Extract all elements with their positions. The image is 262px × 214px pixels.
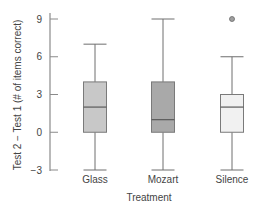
x-axis-labels: GlassMozartSilence — [82, 174, 249, 185]
boxes — [84, 17, 244, 171]
y-tick-label: 0 — [36, 127, 42, 138]
box-mozart — [152, 19, 175, 170]
y-tick-label: 6 — [36, 51, 42, 62]
y-axis-title: Test 2 − Test 1 (# of items correct) — [12, 20, 23, 171]
y-tick-label: −3 — [31, 165, 43, 176]
box-glass — [84, 44, 107, 170]
x-category-label: Silence — [216, 174, 249, 185]
y-axis: 9630−3 — [31, 13, 58, 176]
iqr-box — [152, 82, 175, 132]
outlier-point — [230, 17, 235, 22]
x-category-label: Glass — [82, 174, 108, 185]
box-plot-chart: 9630−3 GlassMozartSilence Treatment Test… — [0, 0, 262, 214]
y-tick-label: 3 — [36, 89, 42, 100]
iqr-box — [221, 95, 244, 133]
x-category-label: Mozart — [148, 174, 179, 185]
box-silence — [221, 17, 244, 171]
y-tick-label: 9 — [36, 14, 42, 25]
x-axis-title: Treatment — [126, 192, 171, 203]
